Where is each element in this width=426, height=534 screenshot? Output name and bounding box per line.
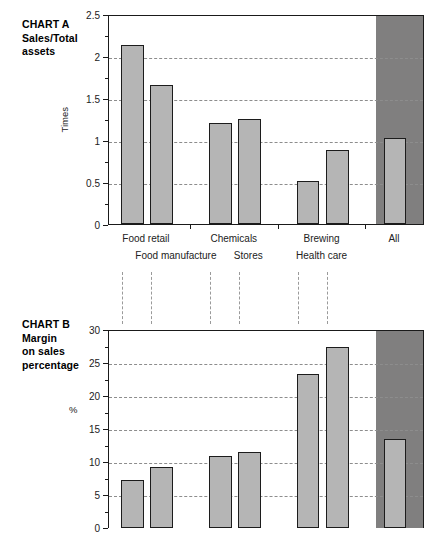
y-axis-tick	[103, 363, 108, 364]
bar-health-care	[326, 347, 349, 528]
bar-all	[384, 439, 407, 528]
y-axis-minor-tick	[105, 413, 108, 414]
y-axis-minor-tick	[105, 78, 108, 79]
x-axis-label-health-care: Health care	[296, 250, 347, 261]
y-axis-tick	[103, 330, 108, 331]
x-axis-tick	[278, 225, 279, 229]
y-axis-tick	[103, 396, 108, 397]
y-axis-tick-label: 10	[60, 457, 100, 468]
y-axis-tick	[103, 183, 108, 184]
bar-chemicals	[209, 123, 232, 224]
y-axis-tick	[103, 528, 108, 529]
bar-stores	[238, 452, 261, 528]
gridline	[109, 430, 423, 431]
y-axis-minor-tick	[105, 446, 108, 447]
y-axis-tick-label: 25	[60, 358, 100, 369]
y-axis-tick	[103, 429, 108, 430]
chart-a-axis-unit: Times	[59, 107, 70, 133]
bar-brewing	[297, 181, 320, 224]
gridline	[109, 364, 423, 365]
bar-food-retail	[121, 480, 144, 528]
bar-chemicals	[209, 456, 232, 528]
bar-food-manufacture	[150, 467, 173, 528]
chart-b-plot-area	[108, 330, 424, 528]
x-axis-label-brewing: Brewing	[304, 233, 340, 244]
category-connector-line	[239, 272, 240, 324]
x-axis-label-food-manufacture: Food manufacture	[135, 250, 216, 261]
bar-food-retail	[121, 45, 144, 224]
category-connector-line	[298, 272, 299, 324]
y-axis-tick-label: 2.5	[60, 10, 100, 21]
y-axis-minor-tick	[105, 512, 108, 513]
y-axis-tick	[103, 141, 108, 142]
y-axis-minor-tick	[105, 380, 108, 381]
y-axis-tick	[103, 495, 108, 496]
y-axis-tick-label: 15	[60, 424, 100, 435]
y-axis-tick-label: 1	[60, 136, 100, 147]
gridline	[109, 397, 423, 398]
category-connector-line	[151, 272, 152, 324]
y-axis-minor-tick	[105, 162, 108, 163]
y-axis-tick-label: 0	[60, 220, 100, 231]
y-axis-tick-label: 30	[60, 325, 100, 336]
y-axis-tick-label: 5	[60, 490, 100, 501]
x-axis-tick	[190, 225, 191, 229]
bar-health-care	[326, 150, 349, 224]
y-axis-tick-label: 0	[60, 523, 100, 534]
y-axis-tick	[103, 57, 108, 58]
category-connector-line	[210, 272, 211, 324]
x-axis-tick	[365, 225, 366, 229]
y-axis-tick	[103, 99, 108, 100]
y-axis-minor-tick	[105, 204, 108, 205]
y-axis-tick-label: 2	[60, 52, 100, 63]
x-axis-label-food-retail: Food retail	[122, 233, 169, 244]
y-axis-tick	[103, 225, 108, 226]
gridline	[109, 58, 423, 59]
gridline	[109, 463, 423, 464]
bar-food-manufacture	[150, 85, 173, 224]
y-axis-tick-label: 1.5	[60, 94, 100, 105]
y-axis-tick-label: 0.5	[60, 178, 100, 189]
category-connector-line	[327, 272, 328, 324]
y-axis-minor-tick	[105, 120, 108, 121]
y-axis-minor-tick	[105, 479, 108, 480]
y-axis-minor-tick	[105, 36, 108, 37]
bar-stores	[238, 119, 261, 224]
x-axis-label-all: All	[388, 233, 399, 244]
chart-b-axis-unit: %	[69, 404, 77, 415]
x-axis-label-stores: Stores	[234, 250, 263, 261]
y-axis-tick	[103, 462, 108, 463]
bar-brewing	[297, 374, 320, 528]
x-axis-label-chemicals: Chemicals	[210, 233, 257, 244]
bar-all	[384, 138, 407, 224]
category-connector-line	[122, 272, 123, 324]
chart-a-plot-area	[108, 15, 424, 225]
y-axis-tick	[103, 15, 108, 16]
y-axis-tick-label: 20	[60, 391, 100, 402]
y-axis-minor-tick	[105, 347, 108, 348]
